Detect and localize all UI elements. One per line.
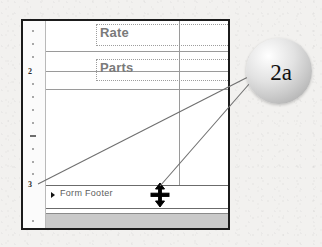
vertical-resize-cursor bbox=[150, 182, 170, 208]
form-footer-section-bar[interactable]: Form Footer bbox=[46, 185, 228, 209]
ruler-tick bbox=[32, 148, 34, 150]
ruler-tick bbox=[32, 161, 34, 163]
form-design-surface[interactable]: Rate Parts Form Footer bbox=[46, 21, 228, 228]
callout-badge-2a: 2a bbox=[246, 38, 312, 104]
form-designer-window: 2 3 Rate Parts bbox=[21, 19, 230, 230]
ruler-tick bbox=[32, 109, 34, 111]
ruler-tick bbox=[32, 83, 34, 85]
ruler-label-2: 2 bbox=[28, 68, 32, 76]
ruler-label-3: 3 bbox=[28, 181, 32, 189]
ruler-tick bbox=[32, 220, 34, 222]
screenshot-root: 2 3 Rate Parts bbox=[0, 0, 322, 247]
form-footer-label: Form Footer bbox=[60, 188, 113, 198]
parts-textbox[interactable]: Parts bbox=[96, 59, 228, 81]
ruler-tick bbox=[32, 173, 34, 175]
rate-textbox-label: Rate bbox=[100, 24, 129, 41]
ruler-tick bbox=[32, 43, 34, 45]
ruler-tick bbox=[32, 96, 34, 98]
ruler-tick bbox=[32, 122, 34, 124]
ruler-tick bbox=[32, 56, 34, 58]
ruler-tick bbox=[32, 30, 34, 32]
grid-horizontal-line bbox=[46, 89, 228, 90]
form-footer-body[interactable] bbox=[46, 213, 228, 228]
parts-textbox-label: Parts bbox=[100, 59, 134, 76]
section-expander-icon bbox=[51, 192, 55, 198]
rate-textbox[interactable]: Rate bbox=[96, 24, 228, 46]
grid-horizontal-line bbox=[46, 51, 228, 52]
ruler-tick-major bbox=[30, 135, 36, 137]
callout-badge-label: 2a bbox=[270, 61, 292, 84]
vertical-ruler[interactable]: 2 3 bbox=[23, 21, 46, 228]
